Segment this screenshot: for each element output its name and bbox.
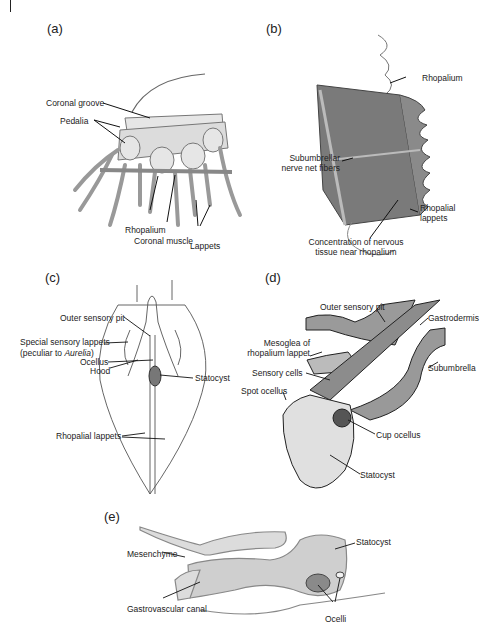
label-e-gastrovascular-canal: Gastrovascular canal — [127, 604, 207, 614]
label-e-mesenchyme: Mesenchyme — [127, 549, 178, 559]
label-e-ocelli: Ocelli — [325, 614, 346, 624]
rhopalium-development-illustration — [0, 0, 498, 640]
label-e-statocyst: Statocyst — [356, 537, 391, 547]
